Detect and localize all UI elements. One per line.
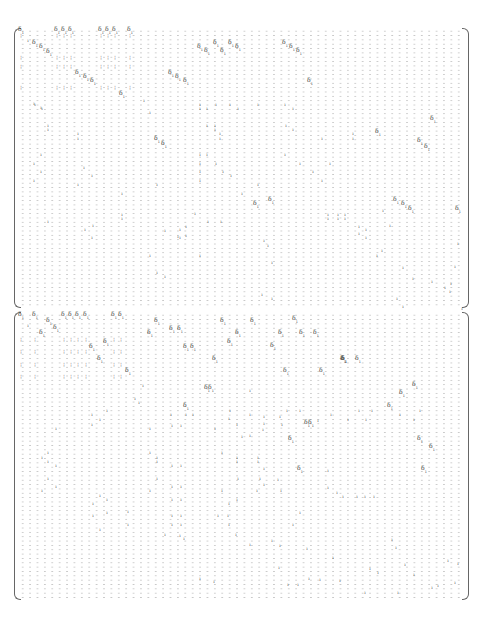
- matrix-entry: δ1: [103, 338, 109, 347]
- matrix-entry: δ1: [319, 367, 325, 376]
- matrix-entry: ¦: [120, 349, 122, 354]
- matrix-entry: δ1: [341, 355, 347, 364]
- matrix-entry: ı: [396, 296, 397, 301]
- matrix-entry: δ1: [39, 43, 45, 52]
- matrix-entry: ı: [228, 416, 229, 421]
- matrix-entry: δ1: [46, 317, 52, 326]
- matrix-entry: ı: [249, 412, 250, 417]
- matrix-entry: ı: [327, 485, 328, 490]
- matrix-entry: ı: [237, 106, 238, 111]
- matrix-entry: ı: [77, 182, 78, 187]
- matrix-entry: ı: [330, 412, 331, 417]
- matrix-entry: δ1: [430, 115, 436, 124]
- matrix-entry: ¦: [129, 85, 131, 90]
- matrix-entry: ¦: [20, 85, 22, 90]
- matrix-entry: ¦: [85, 362, 87, 367]
- matrix-entry: ı: [99, 527, 100, 532]
- matrix-entry: δ1: [270, 342, 276, 351]
- matrix-entry: ı: [262, 427, 263, 432]
- matrix-entry: δ1: [292, 315, 298, 324]
- matrix-entry: ı: [183, 536, 184, 541]
- matrix-entry: δ1: [183, 402, 189, 411]
- matrix-entry: δ1: [283, 367, 289, 376]
- matrix-entry: δ1: [355, 355, 361, 364]
- matrix-entry: ı: [127, 509, 128, 514]
- matrix-entry: ı: [329, 161, 330, 166]
- matrix-entry: ı: [180, 423, 181, 428]
- matrix-entry: ¦: [63, 64, 65, 69]
- matrix-entry: ı: [99, 417, 100, 422]
- matrix-entry: ı: [220, 219, 221, 224]
- matrix-entry: ı: [229, 102, 230, 107]
- matrix-entry: ı: [457, 241, 458, 246]
- matrix-entry: ı: [431, 585, 432, 590]
- matrix-entry: ¦: [113, 362, 115, 367]
- matrix-entry: ı: [55, 484, 56, 489]
- matrix-entry: ı: [156, 182, 157, 187]
- matrix-entry: δ1: [204, 47, 210, 56]
- matrix-entry: ı: [164, 532, 165, 537]
- matrix-entry: ı: [271, 260, 272, 265]
- matrix-entry: ı: [171, 423, 172, 428]
- matrix-entry: ı: [419, 408, 420, 413]
- matrix-entry: ı: [358, 231, 359, 236]
- matrix-entry: ¦: [77, 349, 79, 354]
- left-parenthesis: [14, 312, 21, 600]
- matrix-entry: δ1: [125, 367, 131, 376]
- matrix-entry: ı: [332, 555, 333, 560]
- matrix-entry: δ1: [268, 196, 274, 205]
- matrix-entry: ı: [179, 227, 180, 232]
- matrix-entry: ¦: [129, 64, 131, 69]
- matrix-entry: δ1: [307, 77, 313, 86]
- matrix-entry: δ1: [296, 47, 302, 56]
- matrix-entry: ı: [91, 173, 92, 178]
- bottom-matrix: [18, 312, 465, 600]
- placeholder-dot-grid: [18, 28, 465, 308]
- matrix-entry: ı: [142, 383, 143, 388]
- matrix-entry: δ1: [227, 338, 233, 347]
- matrix-entry: δ1: [412, 381, 418, 390]
- matrix-entry: ¦: [113, 349, 115, 354]
- matrix-entry: ¦: [63, 374, 65, 379]
- matrix-entry: ı: [308, 576, 309, 581]
- right-parenthesis: [462, 312, 469, 600]
- matrix-entry: ı: [192, 412, 193, 417]
- matrix-entry: ı: [263, 238, 264, 243]
- matrix-entry: δ1: [147, 329, 153, 338]
- matrix-entry: ı: [237, 476, 238, 481]
- matrix-entry: ¦: [107, 85, 109, 90]
- matrix-entry: ı: [404, 562, 405, 567]
- matrix-entry: ¦: [129, 33, 131, 38]
- matrix-entry: δ1: [154, 317, 160, 326]
- matrix-entry: ı: [27, 38, 28, 43]
- matrix-entry: ¦: [70, 362, 72, 367]
- matrix-entry: ı: [77, 136, 78, 141]
- matrix-entry: δ1: [289, 43, 295, 52]
- matrix-entry: ¦: [20, 55, 22, 60]
- matrix-entry: ¦: [114, 33, 116, 38]
- matrix-entry: ¦: [107, 64, 109, 69]
- matrix-entry: ¦: [34, 337, 36, 342]
- matrix-entry: ı: [170, 412, 171, 417]
- matrix-entry: ı: [47, 450, 48, 455]
- matrix-entry: ı: [235, 532, 236, 537]
- matrix-entry: ¦: [107, 55, 109, 60]
- matrix-entry: ¦: [120, 374, 122, 379]
- matrix-entry: ¦: [56, 85, 58, 90]
- matrix-entry: ı: [156, 476, 157, 481]
- matrix-entry: ı: [171, 463, 172, 468]
- matrix-entry: ı: [138, 400, 139, 405]
- matrix-entry: ı: [180, 484, 181, 489]
- matrix-entry: ı: [106, 408, 107, 413]
- matrix-entry: ı: [249, 542, 250, 547]
- matrix-entry: ı: [369, 566, 370, 571]
- matrix-entry: ı: [249, 388, 250, 393]
- matrix-entry: ı: [327, 216, 328, 221]
- matrix-entry: ı: [371, 408, 372, 413]
- matrix-entry: ¦: [70, 33, 72, 38]
- matrix-entry: ı: [280, 488, 281, 493]
- matrix-entry: ı: [249, 433, 250, 438]
- matrix-entry: ¦: [85, 337, 87, 342]
- matrix-entry: ı: [194, 211, 195, 216]
- matrix-entry: ı: [389, 223, 390, 228]
